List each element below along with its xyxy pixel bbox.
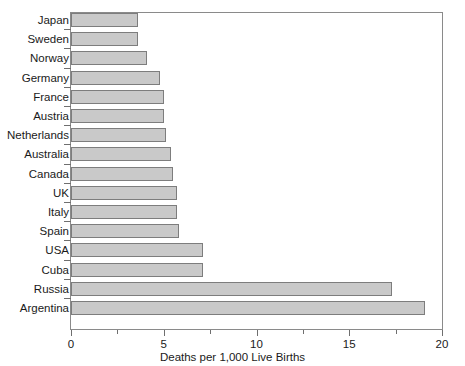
x-axis-tick-label: 10 [237,337,277,351]
x-axis-tick-label: 15 [329,337,369,351]
x-axis-tick-label: 0 [51,337,91,351]
category-label-spain: Spain [0,224,69,239]
bar-argentina [71,301,425,315]
category-label-argentina: Argentina [0,301,69,316]
y-axis-tick [64,144,71,145]
x-axis-minor-tick [117,330,118,334]
category-label-cuba: Cuba [0,263,69,278]
y-axis-tick [64,240,71,241]
bar-japan [71,13,138,27]
bar-germany [71,71,160,85]
bar-spain [71,224,179,238]
category-label-netherlands: Netherlands [0,128,69,143]
category-label-france: France [0,90,69,105]
bar-uk [71,186,177,200]
bar-netherlands [71,128,166,142]
y-axis-tick [64,164,71,165]
y-axis-tick [64,221,71,222]
bar-cuba [71,263,203,277]
x-axis-tick [349,330,350,336]
y-axis-tick [64,106,71,107]
bar-austria [71,109,164,123]
y-axis-tick [64,68,71,69]
bar-row: Argentina [0,301,465,320]
x-axis-tick [442,330,443,336]
x-axis-tick [257,330,258,336]
x-axis-tick [164,330,165,336]
bar-usa [71,243,203,257]
y-axis-tick [64,87,71,88]
category-label-sweden: Sweden [0,32,69,47]
category-label-germany: Germany [0,71,69,86]
x-axis-tick [71,330,72,336]
y-axis-tick [64,125,71,126]
category-label-russia: Russia [0,282,69,297]
category-label-uk: UK [0,186,69,201]
x-axis-tick-label: 5 [144,337,184,351]
category-label-austria: Austria [0,109,69,124]
y-axis-tick [64,48,71,49]
x-axis-title: Deaths per 1,000 Live Births [0,350,465,364]
y-axis-tick [64,260,71,261]
bar-norway [71,51,147,65]
bar-sweden [71,32,138,46]
y-axis-tick [64,202,71,203]
category-label-usa: USA [0,243,69,258]
category-label-norway: Norway [0,51,69,66]
bar-italy [71,205,177,219]
x-axis-minor-tick [210,330,211,334]
y-axis-tick [64,279,71,280]
category-label-australia: Australia [0,147,69,162]
y-axis-tick [64,29,71,30]
y-axis-tick [64,298,71,299]
bar-canada [71,167,173,181]
infant-mortality-bar-chart: JapanSwedenNorwayGermanyFranceAustriaNet… [0,0,465,366]
category-label-japan: Japan [0,13,69,28]
x-axis-tick-label: 20 [422,337,462,351]
category-label-italy: Italy [0,205,69,220]
bar-france [71,90,164,104]
bar-australia [71,147,171,161]
bar-rows-container: JapanSwedenNorwayGermanyFranceAustriaNet… [0,12,465,330]
y-axis-tick [64,183,71,184]
x-axis-minor-tick [396,330,397,334]
bar-russia [71,282,392,296]
x-axis-minor-tick [303,330,304,334]
category-label-canada: Canada [0,167,69,182]
